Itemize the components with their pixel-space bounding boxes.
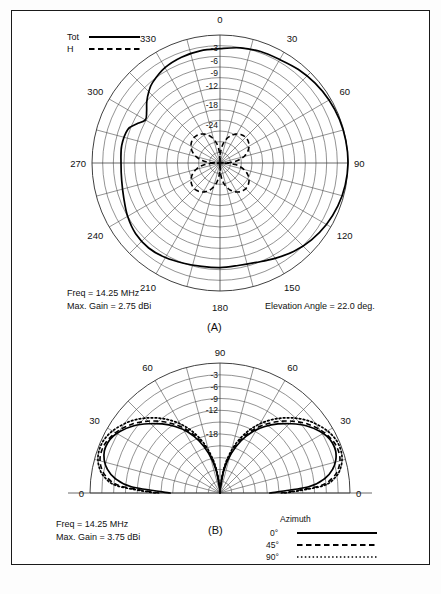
angle-tick-label-1: 30: [89, 415, 100, 426]
ring-tick-label-3: -3: [210, 370, 218, 380]
grid-spoke-120: [220, 163, 331, 227]
legend-b-title: Azimuth: [280, 514, 311, 524]
panel-b-gain-label: Max. Gain = 3.75 dBi: [56, 532, 140, 542]
trace-1-right: [100, 421, 220, 493]
legend-b-entry1-label: 45°: [266, 540, 279, 550]
grid-spoke-60: [220, 99, 331, 163]
panel-a-azimuth-plot: 0306090120150180210240270300330-3-6-9-12…: [12, 11, 429, 341]
ring-tick-label-9: -9: [210, 68, 218, 78]
angle-tick-label-4: 60: [287, 362, 298, 373]
ring-tick-label-12: -12: [206, 405, 219, 415]
panel-a-caption: (A): [207, 321, 222, 333]
figure-page: 0306090120150180210240270300330-3-6-9-12…: [0, 0, 441, 594]
angle-tick-label-210: 210: [140, 282, 156, 293]
angle-tick-label-0: 0: [79, 488, 84, 499]
ring-tick-label-18: -18: [206, 429, 219, 439]
panel-b-grid: [68, 363, 372, 493]
panel-b-freq-label: Freq = 14.25 MHz: [56, 519, 129, 529]
ring-tick-label-9: -9: [210, 394, 218, 404]
panel-b-legend: Azimuth 0° 45° 90°: [266, 514, 377, 562]
grid-spoke-150: [220, 163, 284, 274]
ring-tick-label-6: -6: [210, 382, 218, 392]
grid-spoke-240: [109, 163, 220, 227]
angle-tick-label-60: 60: [339, 86, 350, 97]
angle-tick-label-3: 90: [215, 347, 226, 358]
angle-tick-label-2: 60: [142, 362, 153, 373]
panel-a-svg: 0306090120150180210240270300330-3-6-9-12…: [12, 11, 429, 341]
panel-a-gain-label: Max. Gain = 2.75 dBi: [67, 301, 151, 311]
legend-b-entry2-label: 90°: [266, 552, 279, 562]
angle-tick-label-300: 300: [87, 86, 103, 97]
panel-b-caption: (B): [208, 524, 223, 536]
ring-tick-label-6: -6: [210, 56, 218, 66]
legend-a-entry1-label: H: [67, 44, 74, 54]
legend-b-entry0-label: 0°: [270, 528, 278, 538]
angle-tick-label-150: 150: [284, 282, 300, 293]
angle-tick-label-5: 30: [340, 415, 351, 426]
grid-spoke-225: [129, 163, 220, 254]
ring-tick-label-18: -18: [206, 100, 219, 110]
panel-a-legend: Tot H: [67, 32, 140, 54]
trace-1-left: [220, 421, 340, 493]
ring-tick-label-12: -12: [206, 81, 219, 91]
trace-tot: [121, 48, 348, 268]
panel-a-traces: [121, 48, 348, 268]
angle-tick-label-180: 180: [212, 302, 228, 313]
angle-tick-label-330: 330: [140, 33, 156, 44]
panel-b-elevation-plot: 030609060300-3-6-9-12-18 Freq = 14.25 MH…: [12, 341, 429, 566]
grid-spoke-300: [109, 99, 220, 163]
angle-tick-label-90: 90: [354, 158, 365, 169]
angle-tick-label-30: 30: [287, 33, 298, 44]
panel-b-svg: 030609060300-3-6-9-12-18 Freq = 14.25 MH…: [12, 341, 429, 566]
angle-tick-label-0: 0: [217, 14, 222, 25]
grid-spoke-30: [220, 52, 284, 163]
trace-2-left: [220, 418, 342, 493]
angle-tick-label-240: 240: [87, 230, 103, 241]
ring-tick-label-3: -3: [210, 43, 218, 53]
grid-spoke-30: [107, 428, 220, 493]
grid-spoke-105: [220, 367, 254, 493]
angle-tick-label-120: 120: [337, 230, 353, 241]
grid-spoke-45: [220, 72, 311, 163]
grid-spoke-150: [220, 428, 333, 493]
legend-a-entry0-label: Tot: [67, 32, 80, 42]
trace-2-right: [98, 418, 220, 493]
panel-a-elevation-angle-label: Elevation Angle = 22.0 deg.: [265, 301, 375, 311]
grid-spoke-120: [220, 380, 285, 493]
figure-frame: 0306090120150180210240270300330-3-6-9-12…: [11, 10, 430, 565]
angle-tick-label-6: 0: [356, 488, 361, 499]
ring-tick-label-24: -24: [206, 120, 219, 130]
panel-a-freq-label: Freq = 14.25 MHz: [67, 288, 140, 298]
angle-tick-label-270: 270: [70, 158, 86, 169]
grid-spoke-135: [220, 163, 311, 254]
